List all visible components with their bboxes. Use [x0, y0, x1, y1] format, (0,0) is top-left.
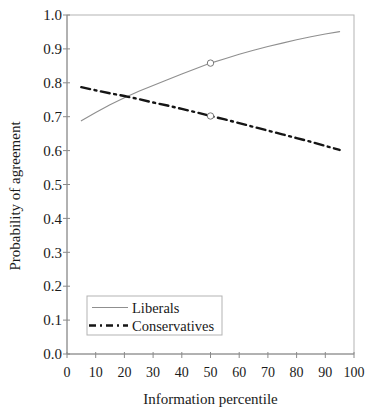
- x-tick-label-100: 100: [344, 365, 365, 380]
- x-axis-title: Information percentile: [143, 391, 278, 407]
- x-tick-label-50: 50: [204, 365, 218, 380]
- y-tick-label-1.0: 1.0: [43, 7, 62, 23]
- y-tick-label-0.3: 0.3: [43, 245, 62, 261]
- x-tick-label-10: 10: [89, 365, 103, 380]
- y-tick-label-0.0: 0.0: [43, 346, 62, 362]
- x-tick-label-70: 70: [261, 365, 275, 380]
- x-tick-label-40: 40: [175, 365, 189, 380]
- y-tick-label-0.6: 0.6: [43, 143, 62, 159]
- legend-label-conservatives: Conservatives: [132, 318, 215, 334]
- y-tick-label-0.4: 0.4: [43, 211, 62, 227]
- y-tick-label-0.5: 0.5: [43, 177, 62, 193]
- legend-label-liberals: Liberals: [132, 300, 180, 316]
- x-tick-label-60: 60: [232, 365, 246, 380]
- x-tick-label-80: 80: [290, 365, 304, 380]
- liberals-line: [81, 32, 339, 121]
- liberals-marker: [207, 60, 213, 66]
- conservatives-marker: [207, 113, 213, 119]
- y-tick-label-0.9: 0.9: [43, 41, 62, 57]
- line-chart: 01020304050607080901000.00.10.20.30.40.5…: [0, 0, 371, 420]
- y-tick-label-0.1: 0.1: [43, 312, 62, 328]
- y-tick-label-0.8: 0.8: [43, 75, 62, 91]
- y-tick-label-0.7: 0.7: [43, 109, 62, 125]
- x-tick-label-90: 90: [318, 365, 332, 380]
- y-axis-title: Probability of agreement: [7, 121, 23, 271]
- x-tick-label-30: 30: [146, 365, 160, 380]
- x-tick-label-0: 0: [64, 365, 71, 380]
- chart-figure: 01020304050607080901000.00.10.20.30.40.5…: [0, 0, 371, 420]
- y-tick-label-0.2: 0.2: [43, 278, 62, 294]
- x-tick-label-20: 20: [117, 365, 131, 380]
